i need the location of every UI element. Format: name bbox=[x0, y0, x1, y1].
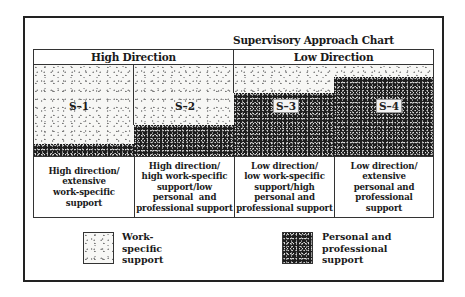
work-specific-segment bbox=[334, 65, 433, 77]
desc-line: work-specific bbox=[48, 187, 119, 198]
desc-line: personal and bbox=[351, 182, 418, 193]
desc-line: extensive bbox=[48, 176, 119, 187]
personal-professional-segment bbox=[334, 77, 433, 156]
legend-line: professional bbox=[322, 243, 391, 255]
bar-s1: S–1 bbox=[34, 65, 134, 156]
desc-line: support/high bbox=[236, 182, 333, 193]
desc-line: professional support bbox=[236, 203, 333, 214]
legend-label-work-specific: Work- specific support bbox=[122, 231, 163, 266]
work-specific-segment bbox=[134, 65, 234, 125]
legend-line: Personal and bbox=[322, 231, 391, 243]
legend-line: Work- bbox=[122, 231, 163, 243]
style-label-s4: S–4 bbox=[376, 99, 402, 113]
personal-professional-segment bbox=[34, 144, 134, 156]
desc-line: extensive bbox=[351, 171, 418, 182]
legend-label-personal-professional: Personal and professional support bbox=[322, 231, 391, 266]
header-low-direction: Low Direction bbox=[233, 49, 434, 65]
bar-s2: S–2 bbox=[134, 65, 234, 156]
bar-s4: S–4 bbox=[334, 65, 433, 156]
legend-swatch-work-specific bbox=[83, 232, 114, 264]
legend-line: support bbox=[122, 254, 163, 266]
stacked-bar-area: S–1 S–2 S–3 S–4 bbox=[33, 65, 434, 156]
desc-line: High direction/ bbox=[48, 166, 119, 177]
desc-line: support bbox=[48, 198, 119, 209]
desc-line: professional bbox=[351, 192, 418, 203]
desc-line: support/low bbox=[136, 182, 233, 193]
style-label-s1: S–1 bbox=[69, 100, 89, 112]
style-label-s2: S–2 bbox=[175, 100, 195, 112]
desc-line: Low direction/ bbox=[351, 161, 418, 172]
description-s1: High direction/ extensive work-specific … bbox=[34, 157, 134, 217]
description-s3: Low direction/ low work-specific support… bbox=[234, 157, 334, 217]
description-row: High direction/ extensive work-specific … bbox=[33, 156, 434, 218]
desc-line: personal and bbox=[236, 192, 333, 203]
desc-line: high work-specific bbox=[136, 171, 233, 182]
desc-line: low work-specific bbox=[236, 171, 333, 182]
desc-line: High direction/ bbox=[136, 161, 233, 172]
desc-line: professional support bbox=[136, 203, 233, 214]
personal-professional-segment bbox=[134, 125, 234, 156]
desc-line: personal and bbox=[136, 192, 233, 203]
desc-line: support bbox=[351, 203, 418, 214]
work-specific-segment bbox=[234, 65, 334, 93]
style-label-s3: S–3 bbox=[273, 99, 299, 113]
legend-line: specific bbox=[122, 243, 163, 255]
description-s4: Low direction/ extensive personal and pr… bbox=[334, 157, 433, 217]
legend-swatch-personal-professional bbox=[282, 232, 313, 264]
chart-title: Supervisory Approach Chart bbox=[233, 34, 394, 46]
description-s2: High direction/ high work-specific suppo… bbox=[134, 157, 234, 217]
desc-line: Low direction/ bbox=[236, 161, 333, 172]
header-high-direction: High Direction bbox=[33, 49, 234, 65]
bar-s3: S–3 bbox=[234, 65, 334, 156]
legend-line: support bbox=[322, 254, 391, 266]
